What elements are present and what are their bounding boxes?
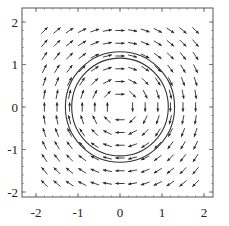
arrow — [43, 102, 46, 111]
arrow — [67, 142, 73, 149]
arrow — [68, 90, 71, 99]
y-tick-label: 0 — [12, 100, 19, 115]
arrow — [154, 53, 161, 59]
arrow — [90, 29, 99, 32]
arrow — [115, 42, 124, 45]
arrow — [144, 102, 147, 111]
arrow — [180, 40, 187, 47]
arrow — [92, 78, 99, 85]
arrow — [66, 168, 73, 174]
x-tick-label: -2 — [31, 205, 42, 220]
arrow — [129, 116, 136, 123]
arrow — [169, 90, 172, 99]
arrow — [169, 102, 172, 111]
arrow — [66, 28, 74, 33]
arrow — [154, 181, 162, 185]
arrow — [80, 115, 83, 124]
arrow — [54, 40, 61, 47]
arrow — [168, 142, 174, 149]
arrow — [128, 182, 137, 185]
arrow — [103, 54, 112, 57]
arrow — [55, 141, 60, 149]
arrow — [103, 143, 112, 146]
arrow — [115, 93, 124, 96]
arrow — [181, 115, 184, 124]
arrow — [43, 115, 46, 124]
arrow — [154, 28, 162, 32]
arrow — [104, 91, 111, 98]
arrow — [167, 40, 174, 46]
arrow — [43, 90, 46, 99]
circle-2 — [72, 58, 169, 156]
x-tick-label: 2 — [201, 205, 208, 220]
arrow — [54, 154, 60, 161]
x-tick-label: 1 — [159, 205, 166, 220]
arrow — [128, 55, 137, 58]
y-tick-label: 1 — [12, 57, 19, 72]
arrow — [93, 90, 97, 98]
arrow — [167, 168, 174, 174]
arrow — [42, 52, 47, 60]
arrow — [42, 154, 47, 162]
arrow — [81, 102, 84, 111]
arrow — [81, 90, 84, 99]
arrow — [169, 115, 172, 124]
arrow — [55, 128, 59, 137]
y-axis-tick-labels: 210-1-2 — [7, 15, 18, 200]
arrow — [90, 182, 99, 185]
arrow — [78, 181, 86, 185]
arrow — [92, 129, 99, 136]
arrow — [143, 116, 147, 124]
arrow — [128, 157, 137, 160]
arrow — [193, 154, 198, 162]
arrow — [128, 42, 137, 45]
arrow — [115, 182, 124, 185]
arrow — [78, 168, 86, 173]
arrow — [193, 40, 199, 47]
arrow — [103, 130, 111, 134]
arrow — [180, 167, 187, 174]
arrow — [103, 41, 112, 44]
arrow — [115, 157, 124, 160]
arrow — [193, 167, 199, 174]
arrow — [182, 102, 185, 111]
arrow — [78, 28, 86, 32]
arrow — [54, 52, 60, 59]
arrow — [156, 115, 159, 124]
arrow — [104, 116, 111, 123]
axis-ticks — [22, 8, 213, 197]
arrow — [66, 155, 73, 162]
arrow — [53, 28, 60, 34]
arrow — [115, 169, 124, 172]
arrow — [66, 53, 73, 60]
arrow — [115, 67, 124, 70]
arrow — [79, 53, 86, 59]
arrow — [193, 52, 198, 60]
arrow — [41, 40, 47, 47]
arrow — [43, 77, 46, 86]
arrow — [115, 55, 124, 58]
x-tick-label: 0 — [117, 205, 124, 220]
arrow — [180, 154, 186, 161]
arrow — [142, 129, 149, 136]
y-tick-label: 2 — [12, 15, 19, 30]
arrow — [156, 90, 159, 99]
arrow — [103, 67, 112, 70]
arrow — [55, 65, 60, 73]
arrow — [128, 79, 136, 83]
arrow — [194, 141, 198, 149]
arrow — [167, 155, 174, 162]
arrow — [129, 91, 136, 98]
arrow — [115, 29, 124, 32]
x-axis-tick-labels: -2-1012 — [31, 205, 208, 220]
arrow — [194, 90, 197, 99]
arrow — [141, 169, 150, 173]
arrow — [103, 79, 111, 83]
arrow — [56, 90, 59, 99]
arrow — [192, 180, 199, 187]
arrow — [103, 182, 112, 185]
x-tick-label: -1 — [73, 205, 84, 220]
arrow — [55, 77, 59, 86]
arrow — [167, 53, 174, 60]
arrow — [106, 102, 109, 111]
